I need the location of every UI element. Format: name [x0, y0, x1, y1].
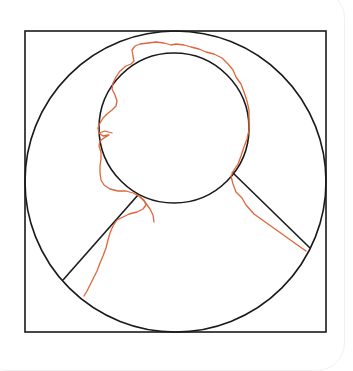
right-shoulder-line: [232, 172, 310, 248]
left-shoulder-line: [63, 195, 138, 280]
outer-circle: [25, 31, 326, 332]
chin-notch: [99, 131, 112, 133]
head-circle: [99, 53, 249, 203]
frame-square: [25, 31, 326, 332]
